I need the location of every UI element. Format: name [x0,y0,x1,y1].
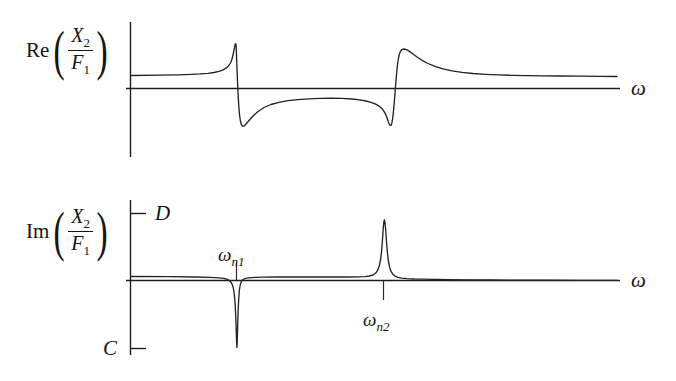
real-part-curve [131,44,617,127]
real-part-xlabel: ω [631,78,646,99]
lower-tick-label: C [103,338,117,359]
upper-tick-label: D [155,203,170,224]
real-part-plot [0,0,676,190]
imaginary-part-plot [0,190,676,381]
omega-n2-label: ωn2 [363,310,389,333]
imaginary-part-xlabel: ω [631,270,646,291]
omega-n1-label: ωn1 [218,245,244,268]
frequency-response-figure: Re ( X2 F1 ) ω Im ( X2 F1 ) [0,0,676,381]
